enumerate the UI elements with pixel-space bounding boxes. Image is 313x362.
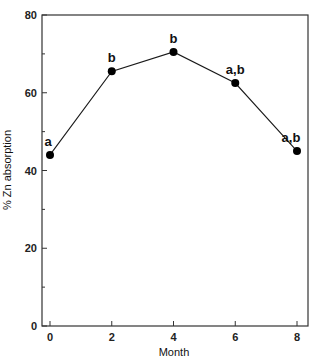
series-line (50, 52, 297, 155)
line-chart: 020406080 02468 abba,ba,b Month % Zn abs… (0, 0, 313, 362)
data-point (293, 147, 301, 155)
y-tick-label: 20 (25, 242, 37, 254)
significance-label: b (108, 50, 116, 65)
plot-border (42, 15, 308, 326)
x-tick-label: 6 (232, 331, 238, 343)
x-tick-label: 8 (294, 331, 300, 343)
x-tick-label: 4 (170, 331, 177, 343)
y-tick-label: 40 (25, 165, 37, 177)
data-point (108, 67, 116, 75)
data-series: abba,ba,b (44, 31, 301, 159)
data-point (231, 79, 239, 87)
significance-label: a (44, 134, 52, 149)
x-axis-ticks: 02468 (47, 321, 300, 343)
x-tick-label: 0 (47, 331, 53, 343)
y-axis-title: % Zn absorption (1, 130, 13, 210)
significance-label: a,b (226, 62, 245, 77)
x-tick-label: 2 (109, 331, 115, 343)
x-axis-title: Month (159, 346, 190, 358)
y-tick-label: 80 (25, 9, 37, 21)
significance-label: b (170, 31, 178, 46)
plot-frame (42, 15, 308, 326)
y-axis-ticks: 020406080 (25, 9, 47, 332)
y-tick-label: 60 (25, 87, 37, 99)
data-point (170, 48, 178, 56)
y-tick-label: 0 (31, 320, 37, 332)
data-point (46, 151, 54, 159)
significance-label: a,b (282, 130, 301, 145)
